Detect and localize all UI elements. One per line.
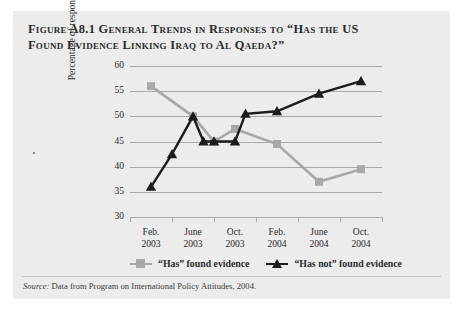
x-axis-tickmark xyxy=(130,217,131,222)
chart-legend: “Has” found evidence “Has not” found evi… xyxy=(130,258,410,269)
figure-page: Figure A8.1 General Trends in Responses … xyxy=(0,0,463,310)
data-point-square xyxy=(315,178,323,186)
legend-item-has-not: “Has not” found evidence xyxy=(266,258,402,269)
data-point-square xyxy=(273,140,281,148)
y-axis-tick-label: 50 xyxy=(84,110,124,120)
series-has xyxy=(147,82,365,186)
y-axis-tick-label: 60 xyxy=(84,60,124,70)
data-point-square xyxy=(357,165,365,173)
figure-title: Figure A8.1 General Trends in Responses … xyxy=(28,22,418,53)
y-axis-title: Percentage of respondents xyxy=(66,0,77,100)
y-axis-tick-label: 45 xyxy=(84,136,124,146)
x-axis-tickmark xyxy=(298,217,299,222)
source-label: Source: xyxy=(23,281,49,291)
x-axis-label-month: Oct. xyxy=(334,226,388,238)
y-axis-tick-label: 55 xyxy=(84,85,124,95)
x-axis-label: Oct.2004 xyxy=(334,226,388,249)
figure-title-line-2: Found Evidence Linking Iraq to Al Qaeda?… xyxy=(28,38,418,54)
figure-title-line-1: Figure A8.1 General Trends in Responses … xyxy=(28,22,418,38)
y-axis-tick-label: 35 xyxy=(84,186,124,196)
legend-label-has-not: “Has not” found evidence xyxy=(294,258,402,269)
legend-label-has: “Has” found evidence xyxy=(158,258,249,269)
chart-plot-area: Percentage of respondents 30354045505560… xyxy=(130,66,382,217)
source-text: Data from Program on International Polic… xyxy=(49,281,256,291)
x-axis-tickmark xyxy=(214,217,215,222)
x-axis-label-year: 2004 xyxy=(334,238,388,250)
source-divider xyxy=(22,276,441,277)
x-axis-tickmark xyxy=(382,217,383,222)
x-axis-tickmark xyxy=(256,217,257,222)
triangle-marker-icon xyxy=(266,259,288,268)
x-axis-tickmark xyxy=(172,217,173,222)
legend-item-has: “Has” found evidence xyxy=(130,258,249,269)
margin-dot xyxy=(33,152,35,154)
chart-series-layer xyxy=(130,66,382,217)
data-point-triangle xyxy=(167,149,177,158)
series-has-not xyxy=(146,76,366,191)
data-point-square xyxy=(147,82,155,90)
square-marker-icon xyxy=(130,259,152,268)
y-axis-tick-label: 30 xyxy=(84,211,124,221)
y-axis-tick-label: 40 xyxy=(84,161,124,171)
data-point-triangle xyxy=(356,76,366,85)
x-axis-tickmark xyxy=(340,217,341,222)
source-note: Source: Data from Program on Internation… xyxy=(23,281,256,291)
series-line xyxy=(151,81,361,187)
